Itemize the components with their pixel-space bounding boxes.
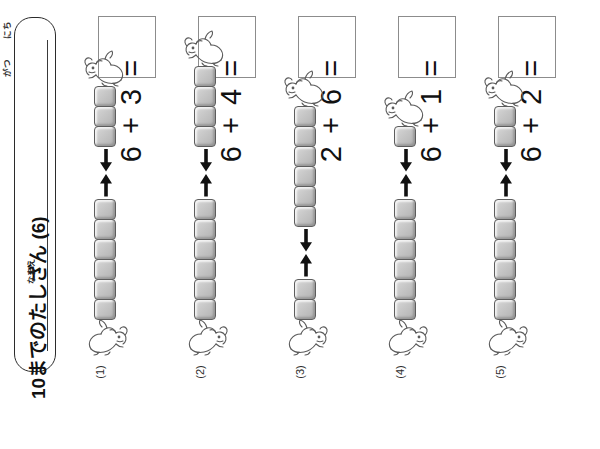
problem-column-2: 6 + 4 =(2) (180, 0, 280, 449)
arrow-down-icon (498, 149, 514, 172)
cube-block-icon (294, 146, 316, 167)
arrow-down-icon (298, 229, 314, 252)
combine-arrows (298, 229, 314, 279)
cube-block-icon (94, 219, 116, 240)
cube-block-icon (94, 106, 116, 127)
cube-block-icon (94, 126, 116, 147)
worksheet-title-plate: 10までのたしざん (6) なまえ (14, 17, 56, 372)
cube-block-icon (394, 239, 416, 260)
cube-block-icon (494, 199, 516, 220)
cube-block-icon (494, 239, 516, 260)
cube-block-icon (194, 199, 216, 220)
problem-number: (4) (390, 352, 410, 392)
cube-block-icon (194, 259, 216, 280)
cube-block-icon (294, 206, 316, 227)
arrow-up-icon (498, 174, 514, 197)
cube-tower-top (294, 106, 318, 226)
arrow-down-icon (98, 149, 114, 172)
cartoon-dog-icon (480, 68, 530, 110)
cube-block-icon (194, 239, 216, 260)
cube-block-icon (94, 259, 116, 280)
arrow-down-icon (398, 149, 414, 172)
combine-arrows (198, 149, 214, 199)
cube-block-icon (494, 279, 516, 300)
date-month-label: がつ (0, 53, 12, 83)
cube-block-icon (194, 106, 216, 127)
cartoon-dog-icon (180, 28, 230, 70)
cube-block-icon (394, 219, 416, 240)
problem-column-5: 6 + 2 =(5) (480, 0, 580, 449)
cube-block-icon (494, 259, 516, 280)
cube-block-icon (294, 186, 316, 207)
date-day-label: にち (0, 15, 12, 45)
arrow-down-icon (198, 149, 214, 172)
cartoon-dog-icon (280, 68, 330, 110)
problem-number: (5) (490, 352, 510, 392)
cube-tower-bottom (294, 279, 318, 319)
cube-tower-bottom (94, 199, 118, 319)
cube-tower-bottom (394, 199, 418, 319)
cartoon-dog-icon (80, 48, 130, 90)
cube-block-icon (94, 279, 116, 300)
cube-block-icon (394, 259, 416, 280)
arrow-up-icon (398, 174, 414, 197)
cube-block-icon (194, 86, 216, 107)
cartoon-dog-icon (380, 88, 430, 130)
cube-block-icon (494, 126, 516, 147)
cube-tower-top (94, 86, 118, 146)
problem-number: (1) (90, 352, 110, 392)
problem-number: (2) (190, 352, 210, 392)
cube-block-icon (494, 219, 516, 240)
cube-block-icon (294, 126, 316, 147)
cube-block-icon (94, 199, 116, 220)
arrow-up-icon (198, 174, 214, 197)
cube-block-icon (194, 219, 216, 240)
problem-column-1: 6 + 3 =(1) (80, 0, 180, 449)
problem-number: (3) (290, 352, 310, 392)
cube-tower-top (194, 66, 218, 146)
arrow-up-icon (298, 254, 314, 277)
cube-block-icon (194, 279, 216, 300)
arrow-up-icon (98, 174, 114, 197)
problem-column-3: 2 + 6 =(3) (280, 0, 380, 449)
cube-block-icon (394, 199, 416, 220)
cube-block-icon (94, 239, 116, 260)
cube-block-icon (294, 279, 316, 300)
cube-block-icon (394, 279, 416, 300)
student-name-label: なまえ (23, 230, 37, 284)
combine-arrows (98, 149, 114, 199)
equation-text: 6 + 4 = (213, 55, 249, 165)
cube-block-icon (194, 126, 216, 147)
cube-tower-top (494, 106, 518, 146)
combine-arrows (398, 149, 414, 199)
cube-tower-bottom (494, 199, 518, 319)
problem-column-4: 6 + 1 =(4) (380, 0, 480, 449)
cube-tower-bottom (194, 199, 218, 319)
combine-arrows (498, 149, 514, 199)
cube-block-icon (294, 166, 316, 187)
